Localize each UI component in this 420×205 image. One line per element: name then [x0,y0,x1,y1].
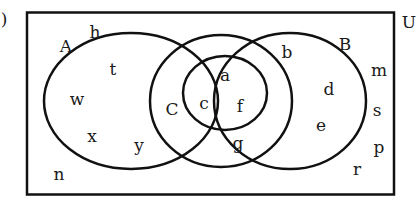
element-a: a [220,67,230,84]
part-marker: ) [1,11,8,28]
set-b-label: B [339,36,352,53]
universe-label: U [402,14,416,31]
element-x: x [87,128,97,145]
element-h: h [90,24,101,41]
element-w: w [70,91,85,108]
element-b: b [282,44,293,61]
element-g: g [233,135,244,152]
element-f: f [237,98,243,115]
element-n: n [54,166,65,183]
element-r: r [353,161,361,178]
element-m: m [371,62,387,79]
element-d: d [324,81,335,98]
venn-diagram: ) U A B C h t w x y n a c f g b d e m s … [0,0,420,205]
element-e: e [316,117,326,134]
element-y: y [134,137,144,154]
element-c: c [199,95,209,112]
element-t: t [110,61,117,78]
element-p: p [374,139,385,156]
set-a-label: A [60,38,72,55]
element-s: s [373,102,382,119]
set-c-label: C [165,101,178,118]
